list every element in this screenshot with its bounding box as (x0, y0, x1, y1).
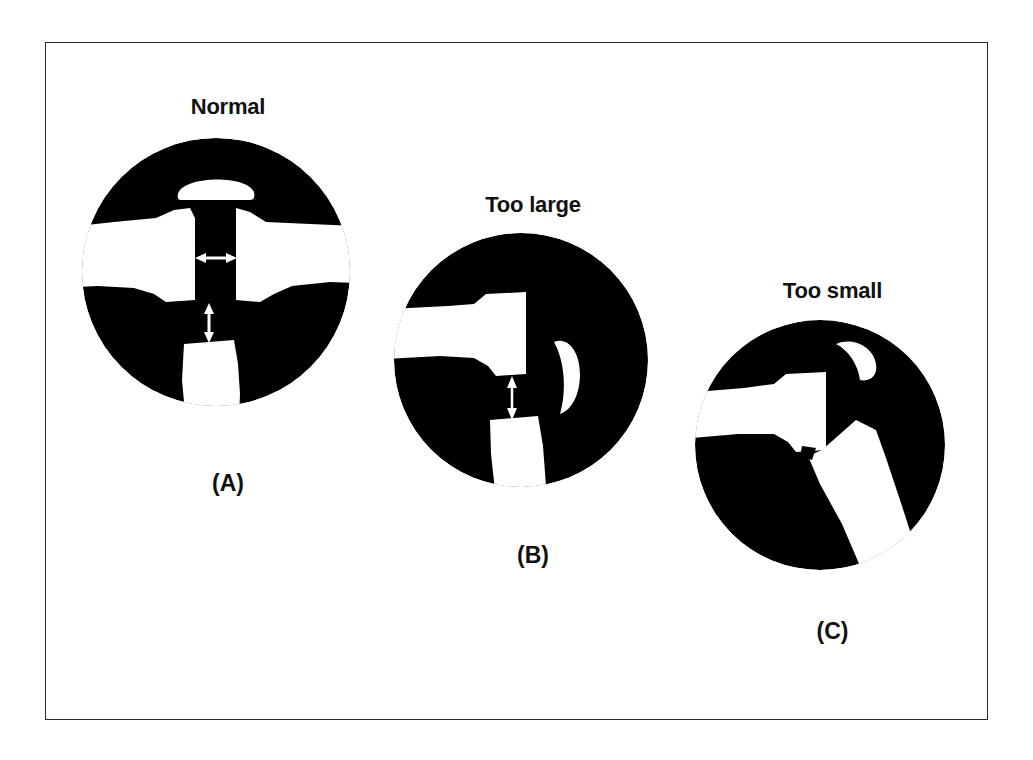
panel-c-too-small: Too small (C) (690, 278, 975, 678)
figure-root: Normal (0, 0, 1033, 760)
panel-c-caption: (C) (690, 618, 975, 645)
panel-b-tibia (490, 416, 546, 542)
panel-b-caption: (B) (388, 542, 678, 569)
panel-a-circle-field (78, 138, 378, 462)
panel-a-normal: Normal (78, 88, 378, 518)
panel-c-circle-field (690, 320, 945, 628)
panel-b-too-large: Too large (388, 190, 678, 600)
panel-a-illustration (78, 132, 378, 462)
panel-b-illustration (388, 232, 678, 542)
panel-a-title: Normal (78, 94, 378, 120)
panel-c-title: Too small (690, 278, 975, 304)
panel-c-illustration (690, 318, 975, 628)
panel-a-tibia (182, 340, 240, 462)
panel-b-title: Too large (388, 192, 678, 218)
panel-a-caption: (A) (78, 470, 378, 497)
panel-b-circle-field (388, 233, 648, 542)
